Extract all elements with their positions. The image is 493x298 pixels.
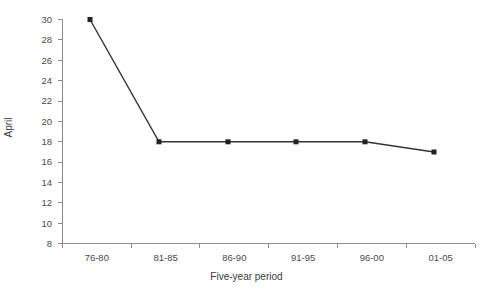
x-axis-ticks [63, 244, 476, 249]
x-axis-title: Five-year period [0, 271, 493, 282]
series-line-april [90, 20, 434, 153]
line-chart: 30 28 26 24 22 20 18 16 14 12 10 8 76-80… [0, 0, 493, 298]
y-tick-label: 8 [26, 239, 52, 249]
data-point [226, 139, 231, 144]
y-tick-label: 28 [26, 35, 52, 45]
y-axis-title: April [3, 108, 14, 148]
y-tick-label: 18 [26, 137, 52, 147]
x-tick-label: 96-00 [337, 253, 407, 263]
series-markers-april [88, 17, 437, 155]
data-point [294, 139, 299, 144]
x-tick-label: 76-80 [62, 253, 132, 263]
data-point [157, 139, 162, 144]
x-tick-label: 91-95 [268, 253, 338, 263]
y-tick-label: 26 [26, 56, 52, 66]
y-tick-label: 12 [26, 198, 52, 208]
y-tick-label: 10 [26, 219, 52, 229]
y-tick-label: 30 [26, 15, 52, 25]
data-point [363, 139, 368, 144]
x-tick-label: 01-05 [406, 253, 476, 263]
data-point [88, 17, 93, 22]
x-tick-label: 86-90 [199, 253, 269, 263]
y-tick-label: 14 [26, 178, 52, 188]
y-tick-label: 16 [26, 157, 52, 167]
y-axis-ticks [58, 20, 63, 244]
y-tick-label: 22 [26, 96, 52, 106]
y-tick-label: 20 [26, 117, 52, 127]
y-tick-label: 24 [26, 76, 52, 86]
x-tick-label: 81-85 [131, 253, 201, 263]
data-point [432, 150, 437, 155]
